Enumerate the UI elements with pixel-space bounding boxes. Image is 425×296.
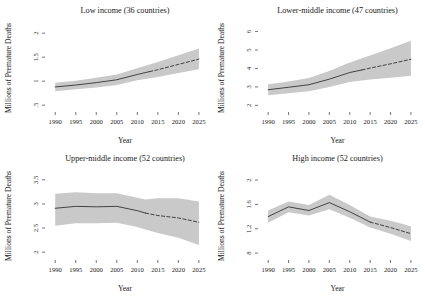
x-tick-label: 2015 (364, 118, 378, 125)
x-tick-label: 1990 (49, 118, 63, 125)
panel-upper-middle-income: Upper-middle income (52 countries)199019… (0, 148, 213, 296)
x-tick-label: 2025 (192, 266, 206, 273)
x-tick-label: 1990 (49, 266, 63, 273)
y-tick-label: 3.5 (32, 175, 39, 184)
x-tick-label: 1995 (69, 118, 83, 125)
x-tick-label: 1995 (69, 266, 83, 273)
x-tick-label: 2005 (110, 118, 124, 125)
y-tick-label: 5 (245, 48, 252, 52)
multi-panel-figure: Low income (36 countries)199019952000200… (0, 0, 425, 296)
x-tick-label: 2000 (302, 118, 316, 125)
y-tick-label: 2.5 (32, 223, 39, 232)
y-tick-label: 2 (245, 178, 252, 181)
y-tick-label: .5 (32, 102, 39, 108)
y-tick-label: 3 (32, 202, 39, 206)
x-tick-label: 2005 (110, 266, 124, 273)
x-tick-label: 2000 (90, 266, 104, 273)
x-axis-title: Year (331, 136, 345, 145)
x-tick-label: 2010 (343, 118, 357, 125)
panel-plot: High income (52 countries)19901995200020… (213, 148, 425, 296)
x-tick-label: 2020 (384, 118, 398, 125)
x-axis-title: Year (118, 284, 132, 293)
x-tick-label: 1990 (262, 266, 276, 273)
x-tick-label: 2010 (131, 266, 145, 273)
x-tick-label: 2020 (172, 118, 186, 125)
y-tick-label: 1.5 (32, 52, 39, 61)
y-axis-title: Millions of Premature Deaths (4, 23, 13, 113)
x-tick-label: 2025 (404, 118, 418, 125)
y-tick-label: 2 (32, 251, 39, 254)
x-tick-label: 2010 (131, 118, 145, 125)
y-tick-label: 3 (245, 85, 252, 89)
x-tick-label: 2000 (90, 118, 104, 125)
confidence-band (268, 195, 411, 241)
y-tick-label: 1.6 (245, 200, 252, 209)
x-tick-label: 2015 (151, 118, 165, 125)
x-tick-label: 2025 (404, 266, 418, 273)
y-axis-title: Millions of Premature Deaths (217, 23, 226, 113)
x-tick-label: 2005 (323, 118, 337, 125)
x-tick-label: 2005 (323, 266, 337, 273)
panel-plot: Low income (36 countries)199019952000200… (0, 0, 213, 148)
panel-title: Low income (36 countries) (81, 6, 170, 15)
x-tick-label: 1990 (262, 118, 276, 125)
y-tick-label: 2 (32, 32, 39, 35)
y-tick-label: 2 (245, 104, 252, 107)
panel-lower-middle-income: Lower-middle income (47 countries)199019… (213, 0, 425, 148)
y-tick-label: 4 (245, 66, 252, 70)
panel-title: Lower-middle income (47 countries) (277, 6, 398, 15)
x-tick-label: 2020 (172, 266, 186, 273)
x-tick-label: 2000 (302, 266, 316, 273)
panel-plot: Upper-middle income (52 countries)199019… (0, 148, 213, 296)
x-tick-label: 2025 (192, 118, 206, 125)
x-tick-label: 1995 (282, 118, 296, 125)
x-tick-label: 1995 (282, 266, 296, 273)
panel-title: High income (52 countries) (292, 154, 383, 163)
panel-plot: Lower-middle income (47 countries)199019… (213, 0, 425, 148)
y-tick-label: 8 (245, 251, 252, 255)
x-axis-title: Year (118, 136, 132, 145)
x-axis-title: Year (331, 284, 345, 293)
y-tick-label: 1.2 (245, 225, 252, 233)
confidence-band (55, 192, 199, 245)
x-tick-label: 2015 (151, 266, 165, 273)
y-tick-label: 1 (32, 80, 39, 83)
x-tick-label: 2020 (384, 266, 398, 273)
y-axis-title: Millions of Premature Deaths (4, 171, 13, 261)
x-tick-label: 2015 (364, 266, 378, 273)
panel-low-income: Low income (36 countries)199019952000200… (0, 0, 213, 148)
x-tick-label: 2010 (343, 266, 357, 273)
panel-title: Upper-middle income (52 countries) (65, 154, 185, 163)
panel-high-income: High income (52 countries)19901995200020… (213, 148, 425, 296)
y-tick-label: 6 (245, 29, 252, 33)
y-axis-title: Millions of Premature Deaths (217, 171, 226, 261)
